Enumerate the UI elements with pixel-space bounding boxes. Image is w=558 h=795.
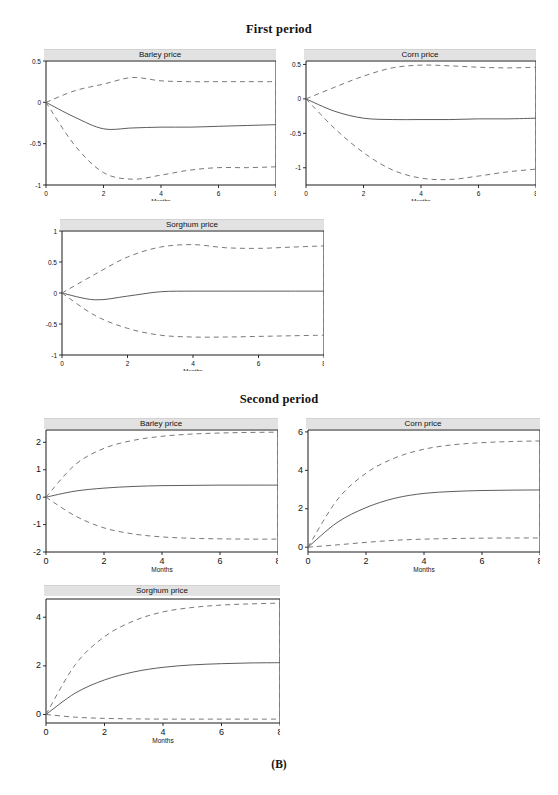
series-first_barley-1 <box>46 77 276 102</box>
chart-panel-second-sorghum: Sorghum price 42002468Months <box>18 585 280 745</box>
ytick-label: -2 <box>33 547 41 557</box>
ytick-label: 0.5 <box>48 259 57 266</box>
ytick-label: 0 <box>36 492 41 502</box>
series-first_barley-2 <box>46 102 276 179</box>
ytick-label: -0.5 <box>30 140 42 147</box>
xtick-label: 0 <box>304 190 308 197</box>
plot-area-second_barley: 210-1-202468Months <box>18 418 278 573</box>
plot-area-first_sorghum: 10.50-0.5-102468Months <box>24 219 324 371</box>
ytick-label: 1 <box>53 228 57 235</box>
ytick-label: 1 <box>36 464 41 474</box>
xtick-label: 0 <box>305 556 310 566</box>
xtick-label: 6 <box>217 556 222 566</box>
series-second_corn-0 <box>308 490 540 547</box>
xtick-label: 6 <box>257 360 261 367</box>
xtick-label: 6 <box>477 190 481 197</box>
series-second_barley-1 <box>46 432 278 497</box>
xtick-label: 0 <box>60 360 64 367</box>
xtick-label: 4 <box>160 727 165 737</box>
xtick-label: 8 <box>537 556 540 566</box>
xtick-label: 0 <box>43 556 48 566</box>
x-axis-title: Months <box>152 737 174 744</box>
figure-caption: (B) <box>0 758 558 770</box>
series-second_corn-2 <box>308 538 540 547</box>
ytick-label: 0.5 <box>32 58 41 65</box>
ytick-label: 6 <box>298 427 303 437</box>
x-axis-title: Months <box>413 566 435 573</box>
ytick-label: -1 <box>51 352 57 359</box>
ytick-label: -1 <box>35 182 41 189</box>
xtick-label: 8 <box>274 190 276 197</box>
xtick-label: 8 <box>534 190 536 197</box>
ytick-label: 0 <box>37 99 41 106</box>
ytick-label: 0 <box>36 709 41 719</box>
series-second_barley-0 <box>46 485 278 497</box>
ytick-label: 0 <box>53 290 57 297</box>
plot-area-second_sorghum: 42002468Months <box>18 585 280 745</box>
section-title-first-period: First period <box>0 22 558 37</box>
xtick-label: 4 <box>191 360 195 367</box>
series-first_sorghum-1 <box>62 245 324 293</box>
ytick-label: 4 <box>298 465 303 475</box>
plot-area-second_corn: 642002468Months <box>290 418 540 573</box>
xtick-label: 2 <box>102 727 107 737</box>
chart-panel-first-corn: Corn price 0.50-0.5-102468Months <box>284 49 536 201</box>
ytick-label: 4 <box>36 612 41 622</box>
series-first_sorghum-0 <box>62 291 324 300</box>
xtick-label: 6 <box>219 727 224 737</box>
xtick-label: 4 <box>419 190 423 197</box>
xtick-label: 6 <box>217 190 221 197</box>
series-second_sorghum-1 <box>46 603 280 714</box>
series-first_corn-1 <box>306 65 536 99</box>
plot-area-first_corn: 0.50-0.5-102468Months <box>284 49 536 201</box>
ytick-label: 2 <box>298 503 303 513</box>
ytick-label: -1 <box>33 519 41 529</box>
ytick-label: 0.5 <box>292 61 301 68</box>
x-axis-title: Months <box>151 566 173 573</box>
xtick-label: 2 <box>362 190 366 197</box>
xtick-label: 2 <box>363 556 368 566</box>
x-axis-title: Months <box>151 198 171 201</box>
chart-panel-second-corn: Corn price 642002468Months <box>290 418 540 573</box>
xtick-label: 6 <box>479 556 484 566</box>
xtick-label: 0 <box>44 190 48 197</box>
chart-panel-first-barley: Barley price 0.50-0.5-102468Months <box>24 49 276 201</box>
x-axis-title: Months <box>183 368 203 371</box>
xtick-label: 4 <box>159 556 164 566</box>
plot-area-first_barley: 0.50-0.5-102468Months <box>24 49 276 201</box>
ytick-label: -0.5 <box>290 130 302 137</box>
xtick-label: 2 <box>126 360 130 367</box>
x-axis-title: Months <box>411 198 431 201</box>
ytick-label: 2 <box>36 437 41 447</box>
xtick-label: 8 <box>275 556 278 566</box>
xtick-label: 2 <box>101 556 106 566</box>
xtick-label: 8 <box>322 360 324 367</box>
xtick-label: 2 <box>102 190 106 197</box>
xtick-label: 0 <box>43 727 48 737</box>
section-title-second-period: Second period <box>0 392 558 407</box>
series-second_corn-1 <box>308 441 540 547</box>
ytick-label: 2 <box>36 660 41 670</box>
series-first_barley-0 <box>46 102 276 129</box>
xtick-label: 4 <box>159 190 163 197</box>
chart-panel-second-barley: Barley price 210-1-202468Months <box>18 418 278 573</box>
ytick-label: 0 <box>298 542 303 552</box>
series-second_sorghum-2 <box>46 714 280 719</box>
series-second_sorghum-0 <box>46 663 280 715</box>
xtick-label: 4 <box>421 556 426 566</box>
chart-panel-first-sorghum: Sorghum price 10.50-0.5-102468Months <box>24 219 324 371</box>
xtick-label: 8 <box>277 727 280 737</box>
ytick-label: -0.5 <box>46 321 58 328</box>
series-second_barley-2 <box>46 497 278 539</box>
series-first_corn-2 <box>306 99 536 180</box>
ytick-label: -1 <box>295 164 301 171</box>
series-first_corn-0 <box>306 99 536 120</box>
ytick-label: 0 <box>297 95 301 102</box>
